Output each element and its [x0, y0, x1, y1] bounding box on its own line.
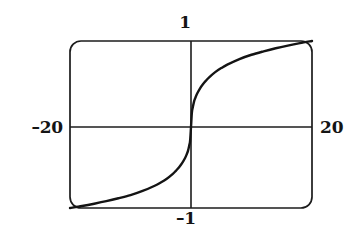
function-plot-figure: 1 –1 –20 20: [0, 0, 353, 232]
x-min-tick-label: –20: [31, 119, 63, 136]
y-min-tick-label: –1: [176, 210, 196, 227]
x-max-tick-label: 20: [320, 119, 343, 136]
y-max-tick-label: 1: [179, 14, 191, 31]
plot-canvas: [0, 0, 353, 232]
